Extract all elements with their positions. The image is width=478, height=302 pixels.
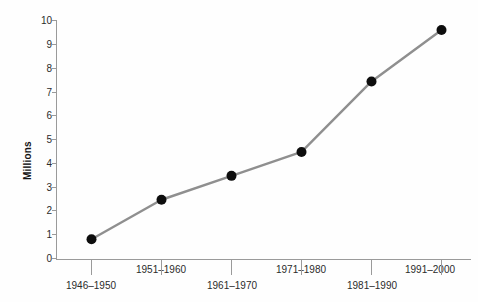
data-point	[437, 25, 447, 35]
data-series-line	[92, 30, 442, 239]
line-chart: Millions 10 9 8 7 6 5 4 3 2 1 0 1946–195…	[0, 0, 478, 302]
data-point	[227, 171, 237, 181]
plot-area	[0, 0, 478, 302]
data-point	[367, 76, 377, 86]
data-point	[157, 195, 167, 205]
y-axis	[52, 21, 57, 260]
data-point	[87, 234, 97, 244]
x-axis	[57, 260, 471, 275]
data-point	[297, 147, 307, 157]
